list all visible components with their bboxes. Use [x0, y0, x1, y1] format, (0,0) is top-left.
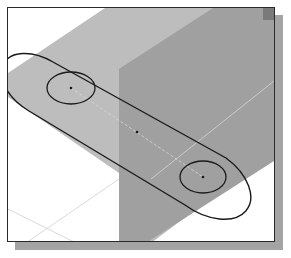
center-point-mid[interactable]: [136, 131, 139, 134]
plane-corner-marker: [263, 8, 274, 20]
center-point-left[interactable]: [70, 87, 73, 90]
cad-viewport: [7, 7, 275, 242]
cad-figure: Isometric CAD sketch of a slot (obround)…: [0, 0, 291, 258]
sketch-canvas: [8, 8, 274, 241]
center-point-right[interactable]: [202, 176, 205, 179]
